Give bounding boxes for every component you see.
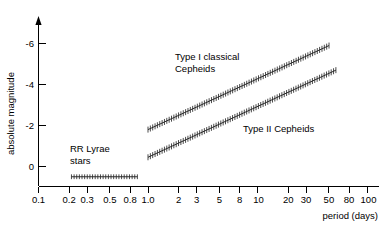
y-tick-label: -2 xyxy=(26,120,34,131)
x-tick-label: 80 xyxy=(344,194,355,205)
cepheid-period-luminosity-chart: -6 -4 -2 0 absolute magnitude xyxy=(0,0,389,231)
x-axis-title: period (days) xyxy=(323,210,378,221)
x-tick-label: 0.3 xyxy=(80,194,93,205)
x-tick-label: 2 xyxy=(176,194,181,205)
type-i-label-line2: Cepheids xyxy=(175,63,215,74)
rr-lyrae-label-line1: RR Lyrae xyxy=(70,143,110,154)
x-tick-label: 100 xyxy=(361,194,377,205)
x-tick-label: 0.1 xyxy=(32,194,45,205)
x-tick-label: 0.8 xyxy=(123,194,136,205)
x-tick-label: 30 xyxy=(301,194,312,205)
x-tick-label: 1.0 xyxy=(141,194,154,205)
y-tick-label: 0 xyxy=(29,161,34,172)
x-tick-label: 10 xyxy=(253,194,264,205)
x-tick-label: 5 xyxy=(217,194,222,205)
x-tick-label: 8 xyxy=(237,194,242,205)
y-tick-label: -6 xyxy=(26,38,34,49)
y-axis-title: absolute magnitude xyxy=(5,72,16,155)
x-tick-label: 0.2 xyxy=(63,194,76,205)
x-tick-label: 0.5 xyxy=(103,194,116,205)
y-tick-label: -4 xyxy=(26,79,34,90)
x-tick-label: 20 xyxy=(283,194,294,205)
x-tick-label: 3 xyxy=(194,194,199,205)
type-i-label-line1: Type I classical xyxy=(175,51,239,62)
rr-lyrae-label-line2: stars xyxy=(70,155,91,166)
x-tick-label: 50 xyxy=(324,194,335,205)
type-ii-label: Type II Cepheids xyxy=(243,123,315,134)
chart-canvas: -6 -4 -2 0 absolute magnitude xyxy=(0,0,389,231)
